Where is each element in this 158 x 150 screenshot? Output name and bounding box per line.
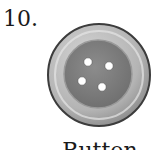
item-caption: Button	[0, 140, 158, 150]
item-number: 10.	[3, 8, 38, 30]
button-icon	[46, 22, 152, 128]
